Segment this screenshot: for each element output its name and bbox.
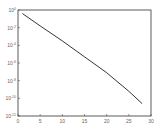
y-tick-label: 10-8 [7, 78, 16, 84]
y-tick-label: 10-10 [5, 95, 16, 101]
plot-frame [18, 10, 151, 116]
x-tick-label: 0 [17, 118, 20, 124]
x-tick-label: 20 [104, 118, 110, 124]
line-chart: 10010-210-410-610-810-1010-12 0510152025… [0, 0, 159, 130]
y-tick-label: 10-2 [7, 25, 16, 31]
y-tick-label: 10-12 [5, 113, 16, 119]
y-tick-label: 10-6 [7, 60, 16, 66]
y-tick-label: 10-4 [7, 42, 16, 48]
x-tick-label: 15 [82, 118, 88, 124]
x-tick-label: 25 [126, 118, 132, 124]
x-tick-label: 5 [39, 118, 42, 124]
y-tick-label: 100 [8, 7, 16, 13]
x-tick-label: 10 [60, 118, 66, 124]
x-tick-label: 30 [148, 118, 154, 124]
